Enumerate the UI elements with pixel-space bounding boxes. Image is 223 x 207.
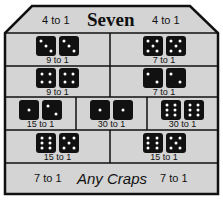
- dice-pair: [161, 100, 204, 120]
- pip: [63, 40, 66, 43]
- die-2-icon: [166, 68, 186, 88]
- odds-label: 7 to 1: [153, 56, 176, 65]
- die-6-icon: [143, 133, 163, 153]
- pip: [49, 147, 52, 150]
- pip: [68, 45, 71, 48]
- die-6-icon: [161, 100, 181, 120]
- bet-aces[interactable]: 30 to 1: [76, 97, 147, 130]
- bet-yo-eleven-left[interactable]: 15 to 1: [5, 130, 110, 163]
- dice-pair: [143, 68, 186, 88]
- bet-twelve[interactable]: 30 to 1: [147, 97, 218, 130]
- dice-pair: [36, 133, 79, 153]
- pip: [170, 72, 173, 75]
- bet-hard-six[interactable]: 9 to 1: [5, 33, 110, 66]
- pip: [72, 137, 75, 140]
- pip: [165, 114, 168, 117]
- pip: [156, 49, 159, 52]
- die-3-icon: [59, 36, 79, 56]
- pip: [63, 72, 66, 75]
- seven-odds-right: 4 to 1: [152, 14, 180, 26]
- pip: [179, 40, 182, 43]
- die-2-icon: [143, 68, 163, 88]
- dice-pair: [36, 36, 79, 56]
- pip: [55, 113, 58, 116]
- die-6-icon: [36, 133, 56, 153]
- pip: [169, 40, 172, 43]
- pip: [45, 45, 48, 48]
- die-5-icon: [166, 36, 186, 56]
- die-1-icon: [90, 100, 110, 120]
- die-4-icon: [59, 68, 79, 88]
- pip: [40, 147, 43, 150]
- pip: [174, 109, 177, 112]
- dice-pair: [36, 68, 79, 88]
- pip: [188, 103, 191, 106]
- pip: [151, 45, 154, 48]
- dice-pair: [90, 100, 133, 120]
- pip: [49, 142, 52, 145]
- die-1-icon: [113, 100, 133, 120]
- die-6-icon: [184, 100, 204, 120]
- odds-label: 9 to 1: [46, 88, 69, 97]
- pip: [197, 114, 200, 117]
- pip: [188, 114, 191, 117]
- pip: [72, 81, 75, 84]
- pip: [146, 40, 149, 43]
- pip: [63, 146, 66, 149]
- craps-proposition-board: 4 to 1 Seven 4 to 1 9 to 17 to 19 to 17 …: [0, 0, 223, 207]
- pip: [179, 146, 182, 149]
- pip: [46, 104, 49, 107]
- odds-label: 30 to 1: [98, 120, 126, 129]
- pip: [174, 45, 177, 48]
- pip: [174, 114, 177, 117]
- pip: [169, 137, 172, 140]
- pip: [49, 136, 52, 139]
- bet-hard-ten[interactable]: 7 to 1: [110, 33, 218, 66]
- pip: [99, 109, 102, 112]
- pip: [146, 49, 149, 52]
- pip: [72, 72, 75, 75]
- pip: [40, 81, 43, 84]
- pip: [147, 142, 150, 145]
- pip: [169, 49, 172, 52]
- seven-title: Seven: [87, 9, 135, 31]
- pip: [156, 40, 159, 43]
- pip: [197, 103, 200, 106]
- pip: [40, 40, 43, 43]
- pip: [174, 103, 177, 106]
- pip: [155, 81, 158, 84]
- seven-odds-left: 4 to 1: [42, 14, 70, 26]
- odds-label: 15 to 1: [27, 120, 55, 129]
- pip: [179, 137, 182, 140]
- bet-any-craps[interactable]: 7 to 1 Any Craps 7 to 1: [5, 163, 218, 194]
- any-craps-title: Any Craps: [77, 170, 147, 187]
- bet-ace-deuce[interactable]: 15 to 1: [5, 97, 76, 130]
- bet-yo-eleven-right[interactable]: 15 to 1: [110, 130, 218, 163]
- dice-pair: [143, 36, 186, 56]
- pip: [40, 142, 43, 145]
- any-craps-odds-left: 7 to 1: [34, 172, 62, 184]
- pip: [155, 147, 158, 150]
- pip: [155, 142, 158, 145]
- pip: [169, 146, 172, 149]
- pip: [147, 136, 150, 139]
- die-5-icon: [166, 133, 186, 153]
- pip: [63, 137, 66, 140]
- odds-label: 9 to 1: [46, 56, 69, 65]
- pip: [40, 136, 43, 139]
- die-5-icon: [59, 133, 79, 153]
- pip: [165, 109, 168, 112]
- die-4-icon: [36, 68, 56, 88]
- pip: [174, 142, 177, 145]
- pip: [179, 49, 182, 52]
- odds-label: 7 to 1: [153, 88, 176, 97]
- pip: [178, 81, 181, 84]
- dice-pair: [143, 133, 186, 153]
- die-2-icon: [42, 100, 62, 120]
- bet-seven[interactable]: 4 to 1 Seven 4 to 1: [30, 6, 193, 33]
- pip: [49, 72, 52, 75]
- bet-hard-eight[interactable]: 9 to 1: [5, 66, 110, 97]
- bet-hard-four[interactable]: 7 to 1: [110, 66, 218, 97]
- pip: [49, 81, 52, 84]
- die-3-icon: [36, 36, 56, 56]
